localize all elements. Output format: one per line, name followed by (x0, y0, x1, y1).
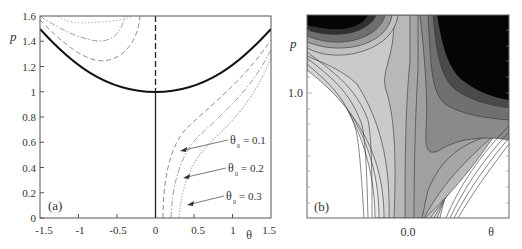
svg-text:= 0.1: = 0.1 (243, 134, 266, 146)
ytick-label: 1.2 (22, 61, 36, 73)
panel-a-ytick-labels: 0 0.2 0.4 0.6 0.8 1 1.2 1.4 1.6 (22, 10, 36, 224)
ytick-label: 0.8 (22, 111, 36, 123)
upper-dashdot-curve (40, 16, 125, 41)
svg-text:θ: θ (228, 161, 234, 175)
xtick-label: 1.5 (262, 224, 276, 236)
panel-b-ytick-label: 1.0 (288, 86, 303, 100)
svg-text:= 0.3: = 0.3 (239, 190, 262, 202)
panel-b-label: (b) (314, 199, 329, 214)
ytick-label: 0.6 (22, 136, 36, 148)
svg-text:0: 0 (235, 171, 238, 177)
ytick-label: 0.4 (22, 162, 36, 174)
panel-a-curves (40, 16, 271, 218)
panel-b-xtick-label: 0.0 (401, 225, 416, 239)
panel-a-label: (a) (48, 198, 62, 213)
ytick-label: 1.4 (22, 35, 36, 47)
xtick-label: -1 (75, 224, 84, 236)
panel-a-ylabel: p (9, 29, 17, 44)
panel-a-yticks (40, 41, 44, 218)
upper-dotted-curve (58, 16, 132, 23)
annotation-theta0-0.2: θ 0 = 0.2 (183, 161, 264, 179)
panel-b: 1.0 p 0.0 θ (b) (288, 15, 509, 239)
annotation-theta0-0.1: θ 0 = 0.1 (180, 133, 266, 152)
annotation-theta0-0.3: θ 0 = 0.3 (187, 189, 262, 206)
svg-text:0: 0 (237, 143, 240, 149)
xtick-label: -0.5 (109, 224, 127, 236)
panel-a-xtick-labels: -1.5 -1 -0.5 0 0.5 1 1.5 (35, 224, 276, 236)
ytick-label: 0 (31, 212, 37, 224)
panel-a: 0 0.2 0.4 0.6 0.8 1 1.2 1.4 1.6 p -1.5 -… (9, 10, 276, 242)
panel-b-xlabel: θ (488, 225, 494, 239)
xtick-label: 0 (153, 224, 159, 236)
panel-b-contours (307, 15, 509, 218)
svg-text:θ: θ (226, 189, 232, 203)
ytick-label: 0.2 (22, 187, 36, 199)
panel-a-xlabel: θ (246, 228, 252, 242)
panel-b-ylabel: p (289, 36, 297, 51)
xtick-label: 1 (230, 224, 236, 236)
xtick-label: 0.5 (191, 224, 205, 236)
svg-text:0: 0 (233, 199, 236, 205)
svg-text:= 0.2: = 0.2 (241, 162, 264, 174)
upper-dashed-curve (40, 16, 140, 61)
ytick-label: 1 (31, 86, 37, 98)
figure: 0 0.2 0.4 0.6 0.8 1 1.2 1.4 1.6 p -1.5 -… (0, 0, 522, 249)
xtick-label: -1.5 (35, 224, 53, 236)
ytick-label: 1.6 (22, 10, 36, 22)
svg-text:θ: θ (230, 133, 236, 147)
